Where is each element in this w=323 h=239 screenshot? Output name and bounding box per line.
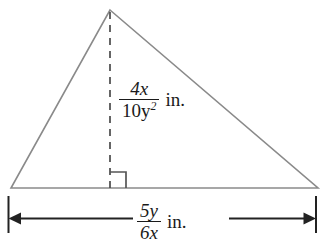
base-numerator: 5y bbox=[137, 201, 161, 221]
height-denominator-exponent: 2 bbox=[151, 100, 157, 113]
height-numerator: 4x bbox=[127, 79, 151, 99]
height-denominator-base: 10y bbox=[122, 100, 151, 121]
base-denominator: 6x bbox=[137, 222, 161, 239]
dimension-arrowhead-left bbox=[9, 213, 22, 225]
base-fraction: 5y 6x bbox=[137, 201, 161, 239]
height-dimension-label: 4x 10y2 in. bbox=[119, 79, 185, 121]
base-unit: in. bbox=[167, 212, 187, 231]
height-denominator: 10y2 bbox=[119, 100, 159, 120]
dimension-arrowhead-right bbox=[304, 213, 317, 225]
base-dimension-label: 5y 6x in. bbox=[137, 201, 186, 239]
triangle-figure: 4x 10y2 in. 5y 6x in. bbox=[0, 0, 323, 239]
height-unit: in. bbox=[165, 90, 185, 109]
height-fraction: 4x 10y2 bbox=[119, 79, 159, 121]
